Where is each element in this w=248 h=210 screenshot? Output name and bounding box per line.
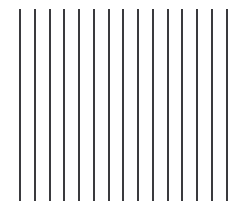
chart-bar: [137, 9, 139, 201]
chart-bar: [49, 9, 51, 201]
chart-bar: [63, 9, 65, 201]
chart-bar: [181, 9, 183, 201]
chart-figure: [0, 0, 248, 210]
chart-bar: [122, 9, 124, 201]
chart-bar: [211, 9, 213, 201]
chart-bar: [196, 9, 198, 201]
plot-area: [0, 0, 248, 210]
chart-bar: [78, 9, 80, 201]
chart-bar: [152, 9, 154, 201]
chart-bar: [108, 9, 110, 201]
chart-bar: [19, 9, 21, 201]
chart-bar: [226, 9, 228, 201]
chart-bar: [34, 9, 36, 201]
chart-bar: [167, 9, 169, 201]
chart-bar: [93, 9, 95, 201]
